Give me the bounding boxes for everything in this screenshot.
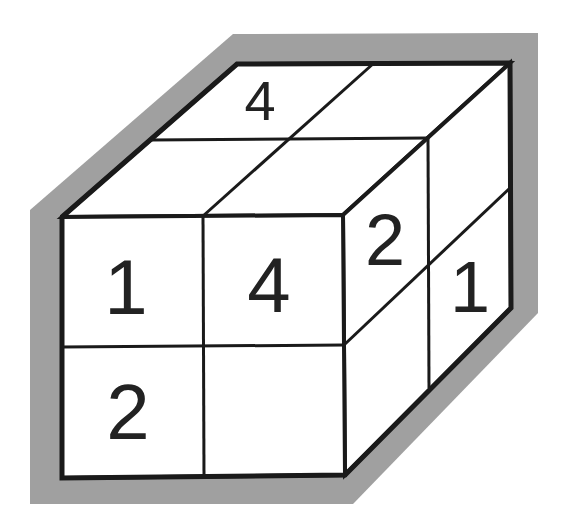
label-top-back-left: 4: [244, 69, 275, 132]
label-front-bottom-left: 2: [106, 368, 149, 456]
label-right-top-back: 1: [450, 247, 490, 327]
front-mid-horizontal: [62, 345, 344, 347]
label-front-top-left: 1: [104, 243, 147, 331]
label-right-top-front: 2: [365, 200, 405, 280]
cube-diagram: 4 1 4 2 2 1: [0, 0, 567, 524]
cube-svg: 4 1 4 2 2 1: [0, 0, 567, 524]
label-front-top-right: 4: [247, 241, 290, 329]
